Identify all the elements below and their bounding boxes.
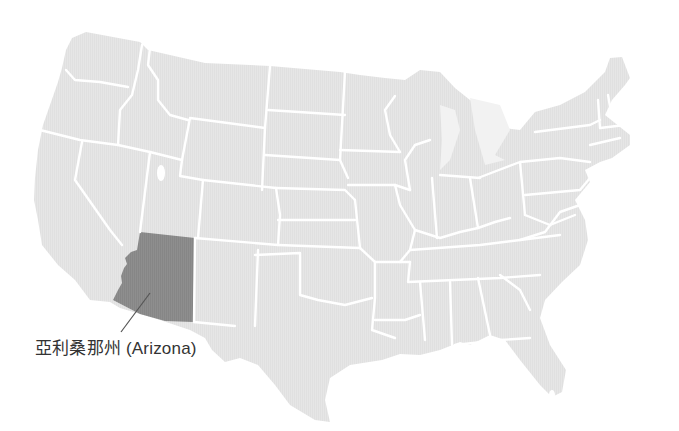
great-salt-lake <box>157 165 165 181</box>
arizona-label: 亞利桑那州 (Arizona) <box>35 334 197 359</box>
us-landmass <box>34 32 630 422</box>
lake-okeechobee <box>549 390 555 400</box>
us-map-graphic <box>0 0 679 431</box>
us-map: 亞利桑那州 (Arizona) <box>0 0 679 431</box>
